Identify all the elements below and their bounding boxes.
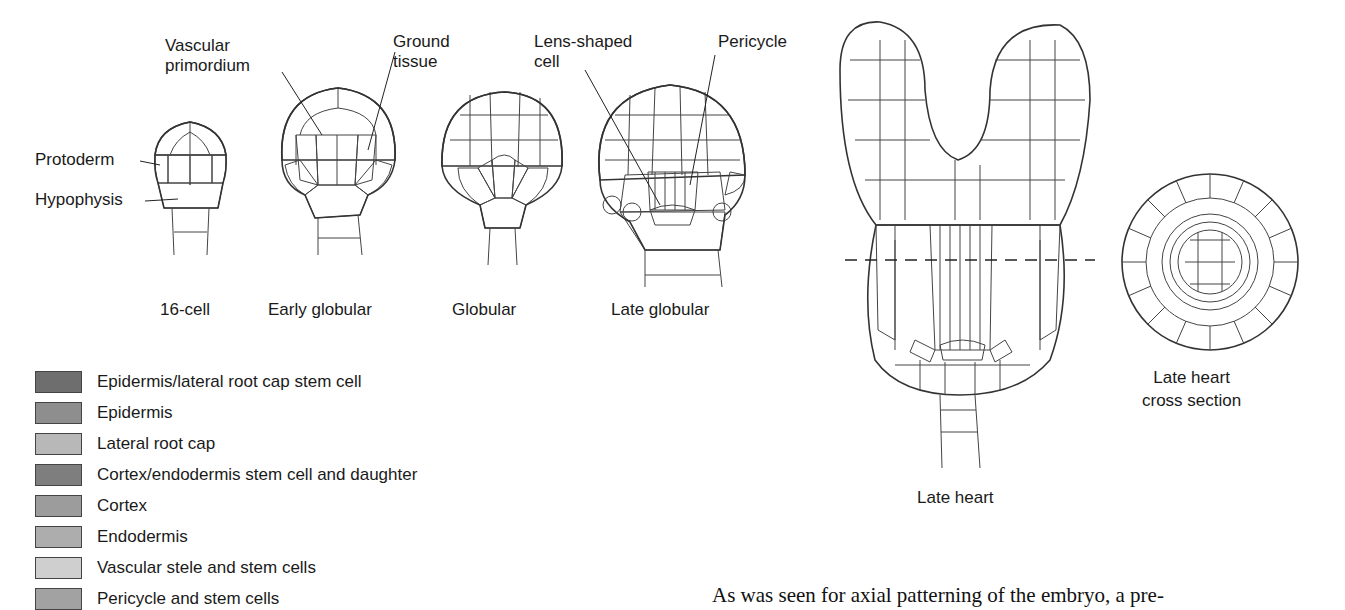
legend-item: Vascular stele and stem cells (35, 552, 417, 583)
legend-label: Cortex (97, 496, 147, 516)
embryo-16-cell (155, 122, 226, 255)
label-ground-tissue: Ground tissue (393, 32, 450, 72)
legend: Epidermis/lateral root cap stem cell Epi… (35, 366, 417, 610)
label-lens-shaped-cell: Lens-shaped cell (534, 32, 632, 72)
legend-label: Epidermis/lateral root cap stem cell (97, 372, 362, 392)
legend-label: Pericycle and stem cells (97, 589, 279, 609)
legend-swatch (35, 371, 82, 393)
legend-swatch (35, 495, 82, 517)
stage-label-early-globular: Early globular (268, 300, 372, 320)
legend-swatch (35, 402, 82, 424)
label-hypophysis: Hypophysis (35, 190, 123, 210)
legend-item: Endodermis (35, 521, 417, 552)
label-line: Vascular (165, 36, 250, 56)
label-line: Lens-shaped (534, 32, 632, 52)
label-line: tissue (393, 52, 450, 72)
stage-label-late-globular: Late globular (611, 300, 709, 320)
legend-label: Endodermis (97, 527, 188, 547)
legend-swatch (35, 557, 82, 579)
label-pericycle: Pericycle (718, 32, 787, 52)
stage-label-late-heart: Late heart (917, 488, 994, 508)
legend-swatch (35, 433, 82, 455)
legend-item: Cortex/endodermis stem cell and daughter (35, 459, 417, 490)
legend-swatch (35, 464, 82, 486)
label-vascular-primordium: Vascular primordium (165, 36, 250, 76)
label-line: Ground (393, 32, 450, 52)
label-line: primordium (165, 56, 250, 76)
embryo-cross-section (1122, 174, 1298, 350)
label-line: cross section (1142, 389, 1241, 412)
label-protoderm: Protoderm (35, 150, 114, 170)
legend-item: Epidermis (35, 397, 417, 428)
legend-item: Cortex (35, 490, 417, 521)
legend-item: Epidermis/lateral root cap stem cell (35, 366, 417, 397)
legend-swatch (35, 588, 82, 610)
legend-label: Vascular stele and stem cells (97, 558, 316, 578)
body-paragraph: As was seen for axial patterning of the … (712, 583, 1164, 608)
stage-label-globular: Globular (452, 300, 516, 320)
label-line: Late heart (1142, 366, 1241, 389)
embryo-late-heart (840, 22, 1095, 468)
embryo-globular (442, 92, 562, 265)
legend-label: Cortex/endodermis stem cell and daughter (97, 465, 417, 485)
legend-swatch (35, 526, 82, 548)
label-line: cell (534, 52, 632, 72)
legend-item: Lateral root cap (35, 428, 417, 459)
embryo-late-globular (599, 85, 745, 287)
stage-label-cross-section: Late heart cross section (1142, 366, 1241, 412)
stage-label-16-cell: 16-cell (160, 300, 210, 320)
legend-item: Pericycle and stem cells (35, 583, 417, 610)
legend-label: Epidermis (97, 403, 173, 423)
legend-label: Lateral root cap (97, 434, 215, 454)
